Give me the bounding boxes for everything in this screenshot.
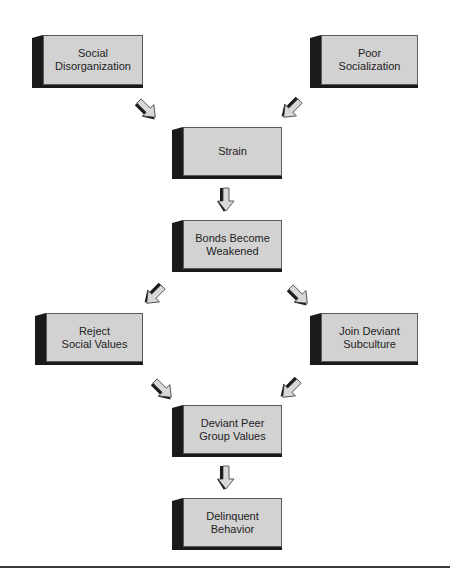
arrow-down-left-icon bbox=[140, 281, 169, 310]
arrows-layer bbox=[0, 0, 450, 587]
bottom-divider bbox=[0, 566, 450, 568]
arrow-down-left-icon bbox=[277, 95, 306, 124]
arrow-down-left-icon bbox=[276, 375, 305, 404]
arrow-down-right-icon bbox=[285, 281, 314, 310]
arrow-down-icon bbox=[217, 188, 234, 212]
arrow-down-icon bbox=[217, 466, 234, 490]
arrow-down-right-icon bbox=[149, 375, 178, 404]
arrow-down-right-icon bbox=[133, 95, 162, 124]
